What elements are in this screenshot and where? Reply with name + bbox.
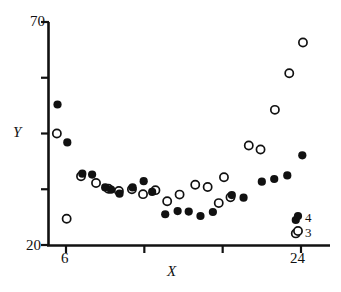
data-point-marker [298,151,306,159]
plot-canvas [0,0,341,292]
data-point-marker [209,208,217,216]
data-point-marker [285,69,293,77]
data-point-marker [63,215,71,223]
data-point-marker [196,212,204,220]
data-point-marker [115,190,123,198]
data-point-marker [128,183,136,191]
data-point-marker [175,191,183,199]
data-point-marker [239,194,247,202]
data-point-marker [161,210,169,218]
data-point-marker [270,175,278,183]
data-point-marker [228,191,236,199]
data-point-marker [215,199,223,207]
series-open-circle-markers [53,38,307,237]
data-point-marker [148,188,156,196]
x-axis-min-tick-label: 6 [61,251,69,266]
x-axis-max-tick-label: 24 [290,251,305,266]
y-axis-title: Y [13,125,21,140]
series-filled-circle-markers [53,100,306,224]
data-point-marker [185,207,193,215]
data-point-marker [245,141,253,149]
legend-label-open: 3 [305,226,312,239]
data-point-marker [107,186,115,194]
data-point-marker [258,178,266,186]
data-point-marker [174,207,182,215]
data-point-marker [220,173,228,181]
data-point-marker [256,145,264,153]
y-axis-max-tick-label: 70 [30,14,45,29]
data-point-marker [53,129,61,137]
data-point-marker [204,183,212,191]
data-point-marker [92,179,100,187]
data-point-marker [191,181,199,189]
scatter-plot-figure: 70 20 6 24 Y X 4 3 [0,0,341,292]
data-point-marker [271,106,279,114]
data-point-marker [78,170,86,178]
data-point-marker [140,177,148,185]
data-point-marker [63,138,71,146]
data-point-marker [283,171,291,179]
data-point-marker [88,170,96,178]
legend-label-filled: 4 [305,211,312,224]
x-axis-title: X [167,264,176,279]
legend-filled-circle-icon [294,212,302,220]
data-point-marker [139,190,147,198]
y-axis-min-tick-label: 20 [26,238,41,253]
legend-open-circle-icon [294,227,302,235]
data-point-marker [53,100,61,108]
data-point-marker [299,38,307,46]
data-point-marker [163,197,171,205]
